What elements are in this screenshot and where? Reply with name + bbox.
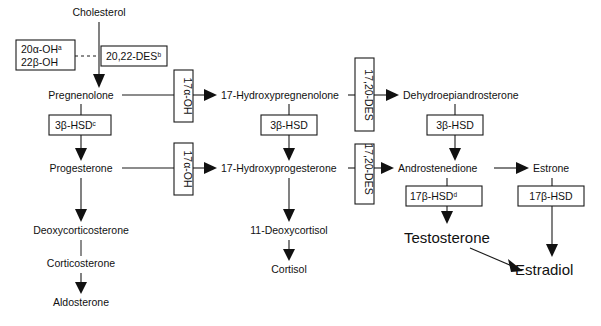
node-androstenedione: Androstenedione: [398, 162, 478, 174]
node-17-hydroxyprogesterone: 17-Hydroxyprogesterone: [221, 162, 337, 174]
node-testosterone: Testosterone: [404, 229, 490, 246]
node-estradiol: Estradiol: [515, 261, 573, 278]
enzyme-label-20a-oh: 20α-OHa: [21, 43, 62, 55]
enzyme-label-17-20-des-bottom: 17,20-DES: [363, 143, 375, 194]
enzyme-label-17a-oh-top: 17α-OH: [182, 78, 194, 115]
enzyme-label-3b-hsd-right: 3β-HSD: [436, 119, 474, 131]
arrowhead-17-hydroxyprogesterone: [283, 148, 295, 161]
node-cholesterol: Cholesterol: [72, 6, 125, 18]
node-estrone: Estrone: [533, 162, 569, 174]
node-deoxycorticosterone: Deoxycorticosterone: [33, 224, 129, 236]
arrowhead-estradiol-from-estrone: [546, 244, 558, 257]
arrowhead-17-hydroxypregnenolone: [204, 89, 217, 101]
node-progesterone: Progesterone: [49, 162, 112, 174]
enzyme-label-17b-hsd-testosterone: 17β-HSDd: [410, 190, 457, 202]
node-aldosterone: Aldosterone: [53, 296, 109, 308]
arrowhead-testosterone: [441, 211, 453, 224]
enzyme-label-17-20-des-top: 17,20-DES: [363, 69, 375, 120]
node-cortisol: Cortisol: [271, 263, 307, 275]
enzyme-label-22b-oh: 22β-OH: [21, 56, 58, 68]
node-corticosterone: Corticosterone: [47, 257, 115, 269]
steroidogenesis-pathway-diagram: Cholesterol 20α-OHa 22β-OH 20,22-DESb Pr…: [0, 0, 601, 326]
enzyme-label-3b-hsd-left: 3β-HSDc: [55, 119, 97, 131]
arrowhead-progesterone-17ohprog: [204, 162, 217, 174]
node-dehydroepiandrosterone: Dehydroepiandrosterone: [403, 89, 519, 101]
enzyme-label-17b-hsd-estradiol: 17β-HSD: [529, 190, 573, 202]
arrowhead-corticosterone-aldosterone: [75, 282, 87, 294]
arrowhead-estrone: [516, 162, 529, 174]
arrowhead-progesterone-deoxycorticosterone: [75, 209, 87, 222]
arrowhead-cholesterol-pregnenolone: [93, 74, 105, 88]
arrowhead-dehydroepiandrosterone: [386, 89, 399, 101]
node-pregnenolone: Pregnenolone: [48, 89, 114, 101]
enzyme-label-3b-hsd-mid: 3β-HSD: [270, 119, 308, 131]
arrowhead-pregnenolone-progesterone: [75, 148, 87, 161]
arrowhead-cortisol: [283, 249, 295, 261]
edge-testosterone-estradiol: [470, 248, 512, 266]
node-11-deoxycortisol: 11-Deoxycortisol: [250, 224, 327, 236]
arrowhead-androstenedione-from-dhea: [449, 148, 461, 161]
enzyme-label-17a-oh-bottom: 17α-OH: [182, 151, 194, 188]
node-17-hydroxypregnenolone: 17-Hydroxypregnenolone: [221, 89, 339, 101]
arrowhead-11-deoxycortisol: [283, 209, 295, 222]
enzyme-label-20-22-des: 20,22-DESb: [106, 50, 161, 62]
arrowhead-androstenedione: [381, 162, 394, 174]
